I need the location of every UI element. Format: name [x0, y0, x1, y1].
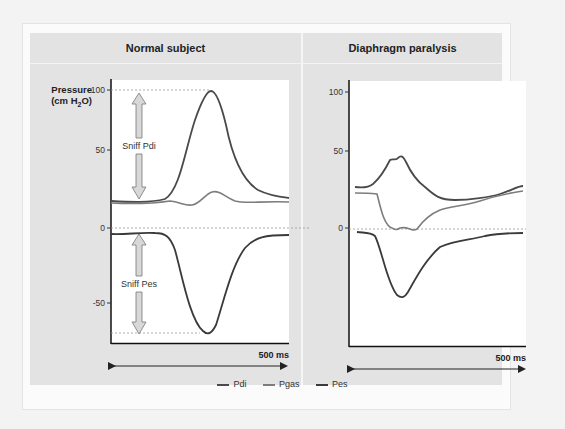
tick-right-0: 0	[338, 223, 343, 233]
plot-normal-subject: 100 50 0 -50 Sniff Pdi Sniff Pes 5	[91, 79, 309, 366]
legend: Pdi Pgas Pes	[0, 379, 565, 389]
tick-left-0: 0	[100, 223, 105, 233]
plot-diaphragm-paralysis: 100 50 0 500 ms	[329, 80, 526, 369]
legend-item-pgas: Pgas	[263, 379, 300, 389]
legend-swatch-pgas	[263, 384, 275, 386]
sniff-pdi-label: Sniff Pdi	[122, 141, 155, 151]
sniff-pes-label: Sniff Pes	[121, 279, 157, 289]
tick-left-100: 100	[91, 85, 105, 95]
chart-canvas: 100 50 0 -50 Sniff Pdi Sniff Pes 5	[0, 0, 565, 429]
time-scale-label-right: 500 ms	[495, 353, 526, 363]
time-scale-label-left: 500 ms	[258, 350, 289, 360]
tick-right-50: 50	[334, 146, 344, 156]
plot-area-right	[349, 81, 526, 346]
legend-item-pdi: Pdi	[217, 379, 246, 389]
tick-left-minus50: -50	[93, 298, 106, 308]
legend-swatch-pes	[316, 384, 328, 386]
tick-left-50: 50	[96, 145, 106, 155]
legend-item-pes: Pes	[316, 379, 348, 389]
tick-right-100: 100	[329, 87, 343, 97]
legend-swatch-pdi	[217, 384, 229, 386]
